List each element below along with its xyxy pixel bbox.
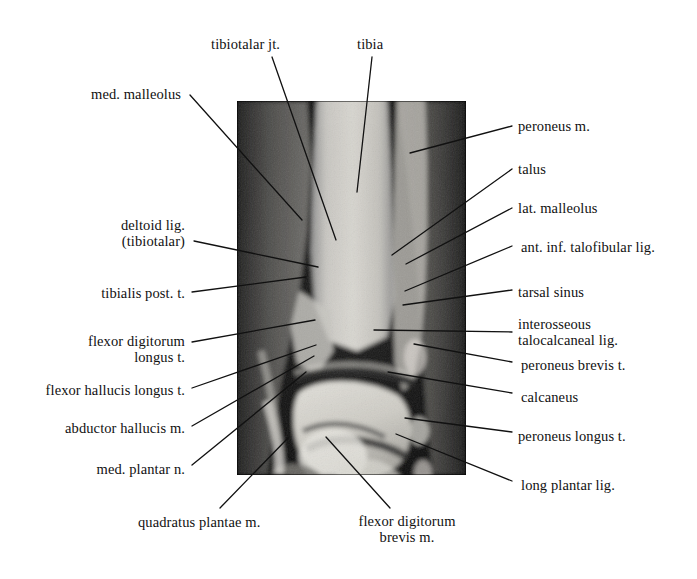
label-flexor-hallucis-longus-t: flexor hallucis longus t. [25, 382, 185, 398]
label-peroneus-brevis-t: peroneus brevis t. [521, 357, 671, 373]
label-abductor-hallucis-m: abductor hallucis m. [40, 420, 185, 436]
label-peroneus-longus-t: peroneus longus t. [518, 428, 668, 444]
label-interosseous-talocalcaneal-lig: interosseous talocalcaneal lig. [518, 316, 678, 348]
label-peroneus-m: peroneus m. [518, 118, 646, 134]
label-tibiotalar-jt: tibiotalar jt. [211, 36, 303, 52]
label-ant-inf-talofibular-lig: ant. inf. talofibular lig. [521, 239, 691, 255]
label-flexor-digitorum-brevis-m: flexor digitorum brevis m. [341, 513, 473, 545]
label-lat-malleolus: lat. malleolus [518, 200, 646, 216]
figure-page: tibiotalar jt.tibiamed. malleolusdeltoid… [0, 0, 697, 579]
label-flexor-digitorum-longus-t: flexor digitorum longus t. [37, 333, 185, 365]
label-deltoid-lig-tibiotalar: deltoid lig. (tibiotalar) [37, 217, 185, 249]
label-calcaneus: calcaneus [521, 389, 649, 405]
label-tibialis-post-t: tibialis post. t. [40, 285, 185, 301]
mri-canvas [237, 101, 466, 475]
label-med-plantar-n: med. plantar n. [45, 461, 185, 477]
label-tarsal-sinus: tarsal sinus [518, 284, 646, 300]
label-tibia: tibia [357, 36, 403, 52]
mri-image [237, 101, 466, 475]
label-quadratus-plantae-m: quadratus plantae m. [138, 514, 313, 530]
label-med-malleolus: med. malleolus [33, 86, 181, 102]
label-talus: talus [518, 161, 646, 177]
label-long-plantar-lig: long plantar lig. [521, 477, 661, 493]
